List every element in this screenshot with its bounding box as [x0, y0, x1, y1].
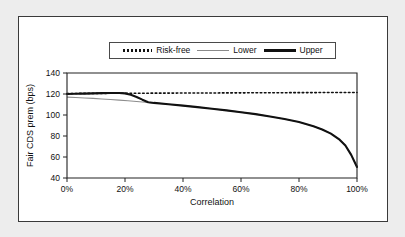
y-tick-label: 60: [51, 152, 61, 162]
labels-layer: 4060801001201400%20%40%60%80%100%Correla…: [25, 68, 368, 207]
plot-area: 4060801001201400%20%40%60%80%100%Correla…: [19, 17, 387, 221]
x-tick-label: 60%: [232, 184, 249, 194]
series-layer: [67, 92, 357, 167]
y-tick-label: 100: [46, 110, 60, 120]
x-tick-label: 100%: [346, 184, 368, 194]
series-lower: [67, 97, 357, 167]
axes-layer: [63, 73, 357, 182]
chart-svg: 4060801001201400%20%40%60%80%100%Correla…: [19, 17, 389, 223]
y-tick-label: 140: [46, 68, 60, 78]
y-axis-title: Fair CDS prem (bps): [25, 84, 35, 167]
y-tick-label: 40: [51, 173, 61, 183]
x-tick-label: 40%: [174, 184, 191, 194]
y-tick-label: 120: [46, 89, 60, 99]
x-tick-label: 20%: [116, 184, 133, 194]
y-tick-label: 80: [51, 131, 61, 141]
x-axis-title: Correlation: [190, 197, 234, 207]
series-upper: [67, 93, 357, 167]
x-tick-label: 0%: [61, 184, 74, 194]
figure-panel: Risk-free Lower Upper 4060801001201400%2…: [18, 16, 388, 222]
x-tick-label: 80%: [290, 184, 307, 194]
